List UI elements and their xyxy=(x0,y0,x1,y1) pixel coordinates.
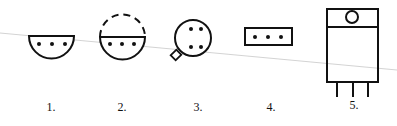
package-4-rectangle xyxy=(245,28,292,45)
label-3: 3. xyxy=(194,100,203,114)
pin-dot xyxy=(108,42,112,46)
package-2-dashed-circle xyxy=(100,15,145,60)
pin-dot xyxy=(199,45,203,49)
pin-dot xyxy=(50,42,54,46)
pin-dot xyxy=(120,42,124,46)
label-2: 2. xyxy=(118,100,127,114)
pin-dot xyxy=(37,42,41,46)
pin-dot xyxy=(189,45,193,49)
mounting-hole xyxy=(346,11,358,23)
pin-dot xyxy=(266,35,270,39)
label-4: 4. xyxy=(267,100,276,114)
package-1-half-circle xyxy=(29,36,74,58)
package-5-to220 xyxy=(327,9,378,97)
package-3-round-tab xyxy=(171,20,211,60)
label-1: 1. xyxy=(47,100,56,114)
pin-dot xyxy=(279,35,283,39)
pin-dot xyxy=(132,42,136,46)
package-outlines-diagram: 1. 2. 3. 4. 5. xyxy=(0,0,397,126)
pin-dot xyxy=(189,27,193,31)
pin-dot xyxy=(253,35,257,39)
pin-dot xyxy=(199,27,203,31)
label-5: 5. xyxy=(350,98,359,112)
pin-dot xyxy=(63,42,67,46)
